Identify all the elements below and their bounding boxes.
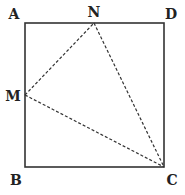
segment-mc: [25, 95, 164, 167]
segment-mn: [25, 23, 94, 95]
vertex-label-n: N: [88, 5, 101, 19]
vertex-label-c: C: [166, 173, 177, 187]
vertex-label-b: B: [10, 173, 22, 187]
vertex-label-m: M: [5, 89, 21, 103]
vertex-label-a: A: [9, 7, 20, 21]
geometry-diagram: [0, 0, 185, 195]
vertex-label-d: D: [165, 7, 177, 21]
segment-nc: [94, 23, 164, 167]
square-abcd: [25, 23, 164, 167]
